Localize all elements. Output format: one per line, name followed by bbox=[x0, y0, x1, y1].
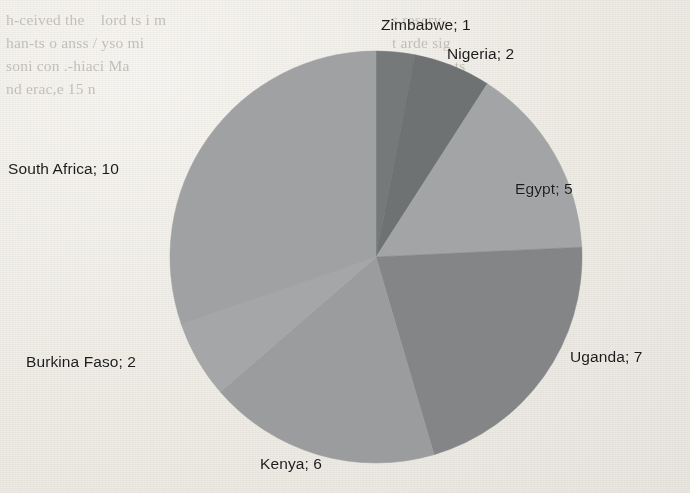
pie-label-egypt: Egypt; 5 bbox=[515, 180, 573, 198]
pie-label-nigeria: Nigeria; 2 bbox=[447, 45, 514, 63]
scanned-page: h-ceived the lord ts i m han-ts o anss /… bbox=[0, 0, 690, 493]
pie-label-uganda: Uganda; 7 bbox=[570, 348, 642, 366]
pie-label-burkina-faso: Burkina Faso; 2 bbox=[26, 353, 136, 371]
pie-label-zimbabwe: Zimbabwe; 1 bbox=[381, 16, 471, 34]
pie-label-kenya: Kenya; 6 bbox=[260, 455, 322, 473]
pie-chart bbox=[169, 50, 583, 464]
pie-label-south-africa: South Africa; 10 bbox=[8, 160, 119, 178]
pie-slice-group bbox=[170, 51, 582, 463]
pie-chart-svg bbox=[169, 50, 583, 464]
